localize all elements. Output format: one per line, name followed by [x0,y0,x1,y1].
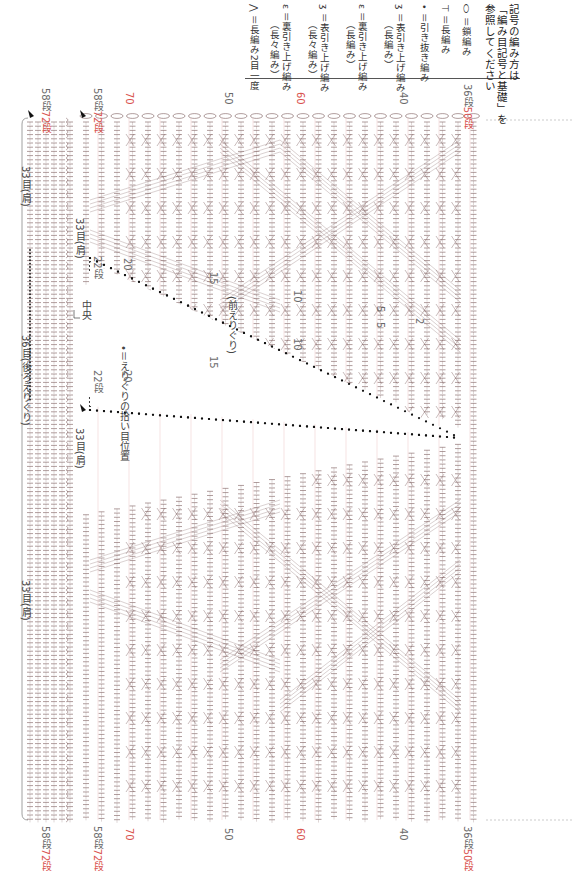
front-neckline-label: (前えりぐり) [226,296,237,354]
row-label-top-50: 50 [223,92,234,105]
row-label-bottom-back: 58段72段 [40,826,51,871]
row-label-top-36: 36段50段 [462,84,473,129]
neck-row-15-right: 15 [208,272,219,285]
row-label-bottom-36: 36段50段 [462,826,473,871]
row-label-bottom-70: 70 [124,828,135,841]
crochet-chart [0,0,573,876]
row-label-bottom-front: 58段72段 [92,826,103,871]
back-left-shoulder-label: 33目(肩) [20,580,31,621]
front-left-shoulder-label: 33目(肩) [74,428,85,469]
neck-row-10-left: 10 [292,338,303,351]
neck-row-15-left: 15 [208,356,219,369]
neck-row-20-left: 20 [122,370,133,383]
row-label-top-70: 70 [124,92,135,105]
pickup-note: •＝えりぐりの拾い目位置 [118,345,129,461]
row-label-bottom-60: 60 [295,828,306,841]
neck-row-22-right: 22段 [92,256,103,279]
row-label-top-front: 58段72段 [92,88,103,133]
row-label-bottom-50: 50 [223,828,234,841]
row-label-bottom-40: 40 [398,828,409,841]
row-label-top-back: 58段72段 [40,88,51,133]
neck-row-22-left: 22段 [92,370,103,393]
front-right-shoulder-label: 33目(肩) [74,218,85,259]
neck-row-20-right: 20 [122,258,133,271]
neck-row-5-left: 5 [375,322,386,328]
neck-row-10-right: 10 [292,290,303,303]
neck-row-5-right: 5 [375,306,386,312]
center-mark: 中央 [80,300,91,320]
row-label-top-40: 40 [398,92,409,105]
back-right-shoulder-label: 33目(肩) [20,166,31,207]
neck-row-2-right: 2 [414,318,425,324]
back-neck-label: 36目(後ろえりぐり) [20,335,31,426]
row-label-top-60: 60 [295,92,306,105]
